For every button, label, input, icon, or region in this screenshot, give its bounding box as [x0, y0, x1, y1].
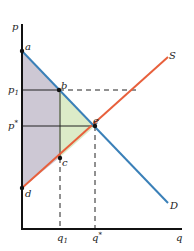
supply-demand-diagram: p q S D a b c d e p1 p* q1 q* — [0, 0, 194, 251]
pstar-label: p* — [8, 119, 18, 131]
label-a: a — [25, 41, 31, 52]
x-axis-label: q — [176, 232, 182, 243]
green-deadweight-region — [59, 90, 95, 158]
point-a — [20, 49, 24, 53]
label-d: d — [25, 188, 31, 199]
qstar-label: q* — [92, 231, 102, 243]
label-b: b — [61, 80, 67, 91]
label-c: c — [62, 157, 68, 168]
point-d — [20, 186, 24, 190]
demand-label: D — [169, 200, 178, 211]
y-axis-label: p — [12, 21, 19, 32]
label-e: e — [93, 115, 99, 126]
p1-label: p1 — [8, 84, 19, 97]
supply-label: S — [169, 50, 176, 61]
q1-label: q1 — [57, 232, 68, 245]
